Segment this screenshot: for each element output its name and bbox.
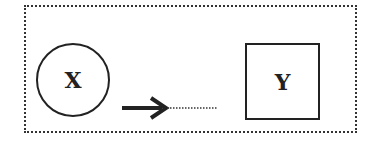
arrow-icon — [122, 98, 166, 118]
arrow-edge — [0, 0, 370, 153]
